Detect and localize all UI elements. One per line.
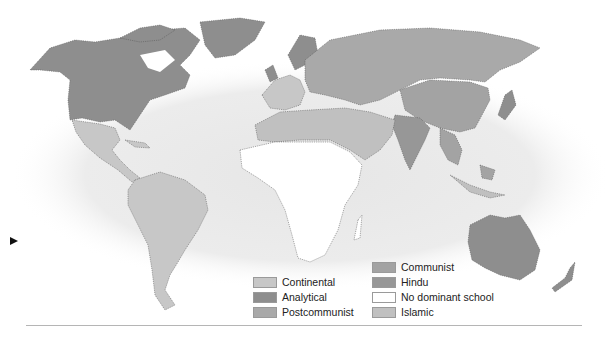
triangle-right-icon <box>10 237 18 245</box>
legend-label: No dominant school <box>401 291 494 303</box>
bottom-divider <box>26 325 582 326</box>
legend-item-postcommunist: Postcommunist <box>253 305 354 319</box>
region-greenland <box>200 18 265 58</box>
legend-label: Analytical <box>282 291 327 303</box>
legend-swatch-analytical <box>253 292 277 303</box>
legend-item-no-dominant-school: No dominant school <box>372 290 494 304</box>
legend-label: Continental <box>282 276 335 288</box>
legend-item-analytical: Analytical <box>253 290 327 304</box>
legend-swatch-communist <box>372 262 396 273</box>
legend-label: Communist <box>401 261 454 273</box>
legend-swatch-hindu <box>372 277 396 288</box>
legend-item-communist: Communist <box>372 260 454 274</box>
legend-swatch-continental <box>253 277 277 288</box>
legend-item-continental: Continental <box>253 275 335 289</box>
legend-label: Islamic <box>401 306 434 318</box>
legend-swatch-islamic <box>372 307 396 318</box>
legend-item-hindu: Hindu <box>372 275 428 289</box>
map-legend: Continental Analytical Postcommunist Com… <box>253 260 573 324</box>
legend-swatch-postcommunist <box>253 307 277 318</box>
legend-label: Postcommunist <box>282 306 354 318</box>
legend-label: Hindu <box>401 276 428 288</box>
legend-item-islamic: Islamic <box>372 305 434 319</box>
legend-swatch-no-dominant-school <box>372 292 396 303</box>
